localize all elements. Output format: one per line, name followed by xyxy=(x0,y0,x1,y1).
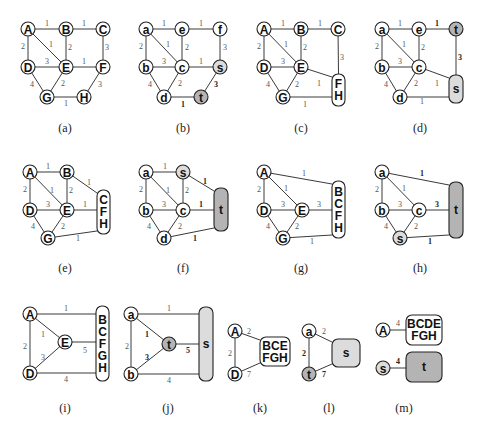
node-F: F xyxy=(96,60,110,75)
supernode-label: H xyxy=(334,89,343,103)
supernode-BCEFGH: BCEFGH xyxy=(260,337,290,366)
node-c: c xyxy=(412,203,426,218)
edge-weight: 2 xyxy=(139,185,143,194)
edge-weight: 2 xyxy=(23,185,27,194)
node-label: b xyxy=(378,204,385,218)
edge-weight: 1 xyxy=(83,200,87,209)
panel-a: 112123314231ABCDEFGH(a) xyxy=(21,19,110,136)
panel-f: 1121231421tasbcd(f) xyxy=(139,162,228,276)
node-G: G xyxy=(276,90,290,105)
edge-weight: 2 xyxy=(375,42,379,51)
edge-weight: 2 xyxy=(414,222,418,231)
supernode-label: FGH xyxy=(262,351,287,365)
node-label: C xyxy=(99,23,108,37)
node-label: a xyxy=(379,23,386,37)
edge-weight: 1 xyxy=(420,169,424,178)
node-c: c xyxy=(176,203,190,218)
node-E: E xyxy=(295,203,309,218)
node-label: t xyxy=(307,368,311,382)
node-a: a xyxy=(124,307,138,322)
node-label: a xyxy=(128,308,135,322)
edge-weight: 1 xyxy=(428,237,432,246)
supernode-t: t xyxy=(449,182,463,238)
node-label: d xyxy=(160,232,167,246)
subfigure-caption: (e) xyxy=(58,261,71,275)
node-label: a xyxy=(306,325,313,339)
edge-weight: 1 xyxy=(310,237,314,246)
edge-weight: 2 xyxy=(125,342,129,351)
node-A: A xyxy=(21,22,35,37)
edge-weight: 2 xyxy=(23,342,27,351)
edge-weight: 4 xyxy=(148,80,152,89)
node-E: E xyxy=(59,60,73,75)
node-t: t xyxy=(194,90,208,105)
node-label: s xyxy=(380,362,387,376)
edge-weight: 4 xyxy=(396,357,400,366)
node-b: b xyxy=(375,60,389,75)
supernode-FH: FH xyxy=(332,74,345,106)
subfigure-caption: (i) xyxy=(59,401,70,415)
edge-weight: 1 xyxy=(398,19,402,28)
subfigure-caption: (d) xyxy=(413,121,427,135)
subfigure-caption: (m) xyxy=(395,401,412,415)
edge-weight: 4 xyxy=(396,319,400,328)
node-d: d xyxy=(157,90,171,105)
edge-weight: 7 xyxy=(322,370,326,379)
subfigure-caption: (l) xyxy=(323,401,334,415)
node-label: A xyxy=(260,166,269,180)
panel-j: 112354satb(j) xyxy=(124,304,213,416)
node-label: D xyxy=(260,204,269,218)
edge-weight: 3 xyxy=(281,200,285,209)
node-D: D xyxy=(23,203,37,218)
supernode-s: s xyxy=(449,75,463,103)
supernode-CFH: CFH xyxy=(97,190,110,234)
node-label: c xyxy=(416,204,423,218)
edge-weight: 3 xyxy=(317,200,321,209)
edge-weight: 5 xyxy=(186,346,190,355)
node-label: E xyxy=(61,336,69,350)
edge-weight: 2 xyxy=(139,42,143,51)
node-D: D xyxy=(257,203,271,218)
node-label: c xyxy=(416,61,423,75)
node-d: d xyxy=(393,90,407,105)
node-A: A xyxy=(228,324,242,339)
panel-k: 227BCEFGHAD(k) xyxy=(228,324,290,415)
edge-weight: 1 xyxy=(402,184,406,193)
edge-weight: 1 xyxy=(193,234,197,243)
edge-weight: 4 xyxy=(384,222,388,231)
edge-weight: 1 xyxy=(203,177,207,186)
supernode-BCDEFGH: BCDEFGH xyxy=(406,315,442,345)
edge-weight: 4 xyxy=(30,80,34,89)
edge-weight: 1 xyxy=(284,40,288,49)
node-label: D xyxy=(26,204,35,218)
node-label: E xyxy=(62,61,70,75)
node-B: B xyxy=(294,22,308,37)
edge-weight: 1 xyxy=(50,186,54,195)
node-a: a xyxy=(139,165,153,180)
edge-weight: 4 xyxy=(384,80,388,89)
node-label: s xyxy=(397,232,404,246)
edge-weight: 7 xyxy=(247,370,251,379)
node-label: D xyxy=(260,61,269,75)
node-label: G xyxy=(43,232,52,246)
node-label: E xyxy=(63,204,71,218)
edge-weight: 3 xyxy=(398,57,402,66)
node-E: E xyxy=(58,335,72,350)
node-E: E xyxy=(294,60,308,75)
node-A: A xyxy=(376,323,390,338)
node-A: A xyxy=(257,165,271,180)
panel-i: 121354BCFGHAED(i) xyxy=(23,304,109,416)
node-label: b xyxy=(142,61,149,75)
node-label: c xyxy=(180,204,187,218)
subfigure-caption: (k) xyxy=(253,401,267,415)
edge-weight: 2 xyxy=(21,42,25,51)
edge-d-t xyxy=(164,228,214,238)
node-label: e xyxy=(179,23,186,37)
edge-weight: 1 xyxy=(402,40,406,49)
node-B: B xyxy=(59,22,73,37)
edge-weight: 1 xyxy=(435,79,439,88)
node-label: e xyxy=(416,23,423,37)
edge-weight: 1 xyxy=(49,40,53,49)
node-a: a xyxy=(375,22,389,37)
edge-weight: 1 xyxy=(281,19,285,28)
